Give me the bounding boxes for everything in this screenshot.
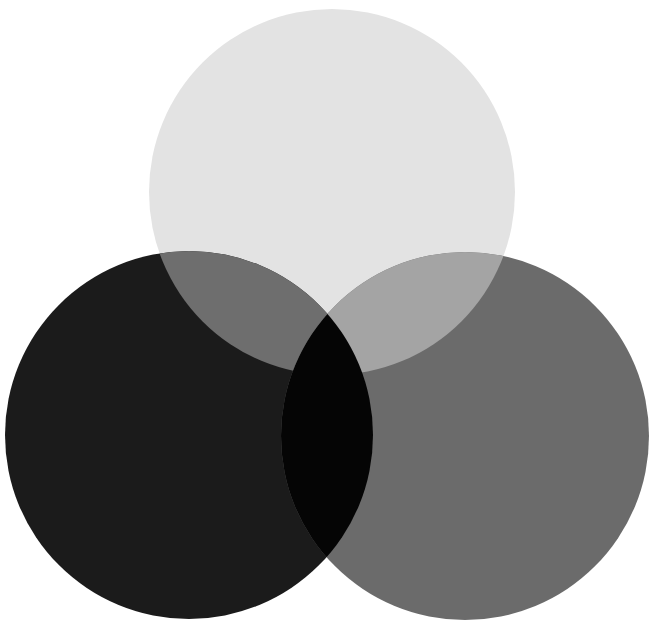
venn-diagram (0, 0, 654, 629)
